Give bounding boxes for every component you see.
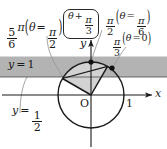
paren-close-right: ) xyxy=(148,31,151,46)
theta-symbol-boxed: θ xyxy=(68,10,74,21)
equals-band-upper: = xyxy=(16,58,25,71)
fraction-one-half: 1 2 xyxy=(32,110,42,133)
paren-close-left: ) xyxy=(59,19,63,37)
fraction-pi-over-three-right: π 3 xyxy=(113,37,122,57)
label-y-equals-one: y=1 xyxy=(8,59,34,70)
paren-open-left: ( xyxy=(25,19,29,37)
paren-close-top: ) xyxy=(147,8,151,24)
paren-open-right: ( xyxy=(122,31,125,46)
label-angle-five-pi-over-six: 5 6 π(θ= π 2 ) xyxy=(6,22,63,50)
equals-band-lower: = xyxy=(20,104,29,117)
x-tick-label-one: 1 xyxy=(126,98,133,109)
theta-symbol-top: θ xyxy=(119,10,125,21)
equals-right: = xyxy=(133,32,141,43)
label-y-equals-one-half: y= 1 2 xyxy=(12,105,43,133)
equals-top: = xyxy=(127,10,135,21)
x-axis-label: x xyxy=(155,88,161,99)
fraction-pi-over-three-boxed: π 3 xyxy=(84,15,93,35)
unit-circle-diagram: 5 6 π(θ= π 2 ) θ+ π 3 π 2 (θ= π 6 ) π 3 … xyxy=(0,0,167,149)
zero-value-right: 0 xyxy=(141,32,147,43)
theta-symbol-right: θ xyxy=(126,32,132,43)
boxed-expression-theta-plus-pi-over-three: θ+ π 3 xyxy=(63,9,99,39)
theta-symbol-left: θ xyxy=(29,21,36,34)
plus-sign-boxed: + xyxy=(75,10,83,21)
paren-open-top: ( xyxy=(116,8,120,24)
equals-left: = xyxy=(37,21,46,34)
origin-label: O xyxy=(80,98,89,109)
y-axis-label: y xyxy=(80,38,86,49)
y-variable-band-lower: y xyxy=(12,104,18,117)
y-variable-band-upper: y xyxy=(8,58,14,71)
label-angle-pi-over-three: π 3 (θ=0) xyxy=(112,33,151,58)
pi-symbol-left: π xyxy=(17,21,24,34)
point-at-pi-over-3 xyxy=(109,65,114,70)
value-band-upper: 1 xyxy=(27,58,34,71)
fraction-pi-over-two: π 2 xyxy=(48,27,58,50)
fraction-five-sixths: 5 6 xyxy=(7,27,17,50)
point-at-pi-over-2 xyxy=(88,59,93,64)
